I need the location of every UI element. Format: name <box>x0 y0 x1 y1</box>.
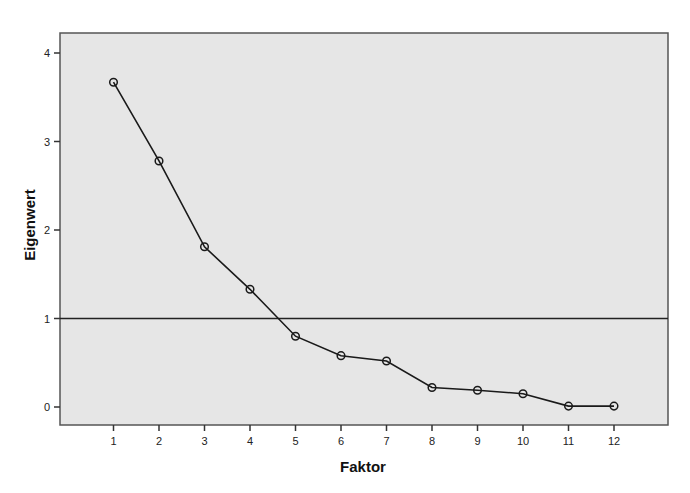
y-tick-label: 2 <box>44 224 50 236</box>
x-tick-label: 5 <box>292 435 298 447</box>
y-axis-title: Eigenwert <box>21 189 38 261</box>
y-tick-label: 0 <box>44 401 50 413</box>
x-tick-label: 3 <box>201 435 207 447</box>
y-tick-label: 1 <box>44 313 50 325</box>
x-tick-label: 2 <box>156 435 162 447</box>
x-tick-label: 1 <box>110 435 116 447</box>
x-tick-label: 12 <box>608 435 620 447</box>
x-axis-ticks: 123456789101112 <box>110 425 620 447</box>
x-tick-label: 10 <box>517 435 529 447</box>
x-axis-title: Faktor <box>340 458 386 475</box>
x-tick-label: 7 <box>383 435 389 447</box>
x-tick-label: 9 <box>474 435 480 447</box>
plot-area <box>60 33 668 425</box>
y-axis-ticks: 01234 <box>44 47 60 413</box>
y-tick-label: 4 <box>44 47 50 59</box>
x-tick-label: 11 <box>563 435 574 447</box>
x-tick-label: 8 <box>429 435 435 447</box>
x-tick-label: 4 <box>247 435 253 447</box>
scree-plot: 01234 123456789101112 Faktor Eigenwert <box>0 0 690 493</box>
x-tick-label: 6 <box>338 435 344 447</box>
y-tick-label: 3 <box>44 136 50 148</box>
